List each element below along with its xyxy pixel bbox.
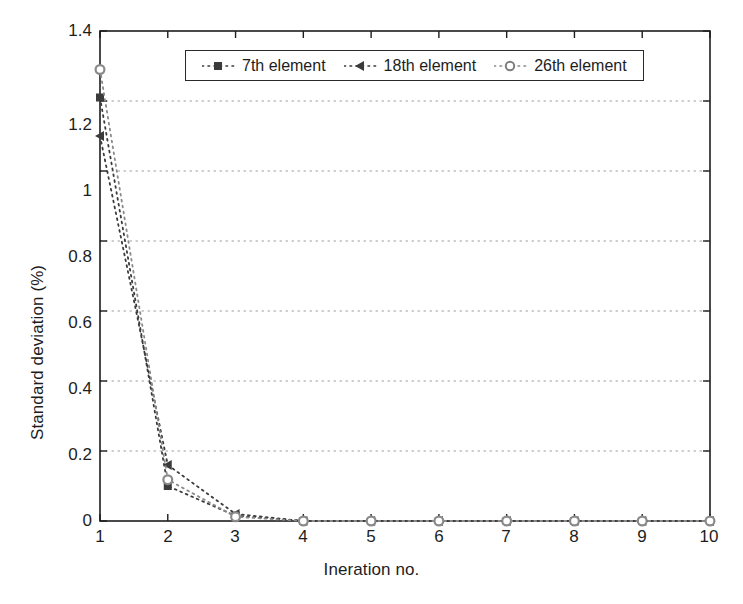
legend-label: 18th element xyxy=(384,57,477,75)
legend-label: 7th element xyxy=(242,57,326,75)
legend-marker-square-icon xyxy=(202,59,236,73)
gridlines xyxy=(100,101,710,451)
legend[interactable]: 7th element 18th element 26th element xyxy=(185,50,644,81)
legend-entry-26th[interactable]: 26th element xyxy=(494,57,627,75)
axis-frame xyxy=(100,31,710,521)
data-series-layer xyxy=(95,65,714,526)
legend-marker-circle-icon xyxy=(494,59,528,73)
legend-entry-18th[interactable]: 18th element xyxy=(344,57,477,75)
legend-label: 26th element xyxy=(534,57,627,75)
chart-figure: Standard deviation (%) Ineration no. 0 0… xyxy=(0,0,743,604)
plot-area xyxy=(0,0,743,604)
series-18th-element xyxy=(95,131,714,526)
axis-ticks xyxy=(100,31,710,521)
legend-marker-triangle-left-icon xyxy=(344,59,378,73)
legend-entry-7th[interactable]: 7th element xyxy=(202,57,326,75)
series-26th-element xyxy=(96,65,715,525)
series-7th-element xyxy=(96,94,714,526)
